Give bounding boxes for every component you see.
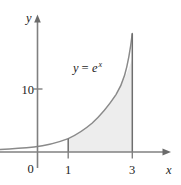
curve-label-variable: y: [71, 61, 79, 75]
x-tick-label-3: 3: [129, 163, 135, 177]
curve-label-exponent: x: [98, 60, 103, 69]
curve-label-equals: =: [82, 61, 89, 75]
exponential-area-chart: 10 0 1 3 y x y = e x: [0, 0, 181, 185]
x-tick-label-1: 1: [65, 163, 71, 177]
curve-equation-label: y = e x: [71, 60, 103, 76]
x-axis-label: x: [165, 163, 172, 177]
y-axis-label: y: [24, 11, 32, 25]
x-tick-label-0: 0: [28, 162, 34, 176]
x-axis-arrowhead-icon: [163, 149, 172, 156]
y-tick-label-10: 10: [22, 83, 35, 97]
figure-container: 10 0 1 3 y x y = e x: [0, 0, 181, 185]
y-axis-arrowhead-icon: [34, 15, 41, 23]
curve-label-base: e: [92, 61, 98, 75]
